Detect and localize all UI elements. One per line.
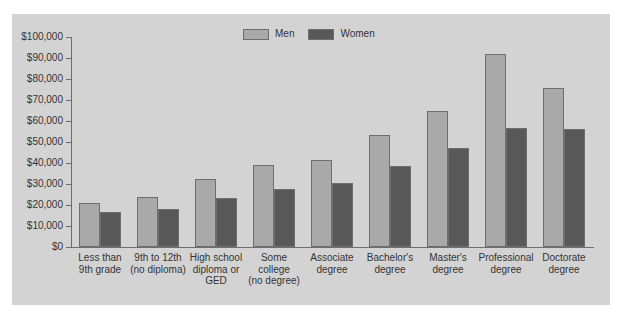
x-category-label-line: Some bbox=[242, 252, 306, 264]
bar-group bbox=[485, 37, 527, 247]
y-axis-tick-labels: $100,000$90,000$80,000$70,000$60,000$50,… bbox=[0, 0, 63, 327]
bar-group bbox=[195, 37, 237, 247]
y-axis-tick bbox=[66, 205, 72, 206]
bar-women bbox=[332, 183, 353, 247]
x-category-label: Master'sdegree bbox=[416, 252, 480, 275]
bar-women bbox=[448, 148, 469, 247]
y-axis-tick bbox=[66, 37, 72, 38]
bar-group bbox=[311, 37, 353, 247]
y-axis-tick bbox=[66, 142, 72, 143]
x-category-label-line: Associate bbox=[300, 252, 364, 264]
x-axis-category-labels: Less than9th grade9th to 12th(no diploma… bbox=[71, 252, 593, 302]
x-category-label-line: Doctorate bbox=[532, 252, 596, 264]
bar-group bbox=[137, 37, 179, 247]
bar-men bbox=[79, 203, 100, 247]
y-axis-tick bbox=[66, 100, 72, 101]
y-axis-tick bbox=[66, 58, 72, 59]
x-category-label: Doctoratedegree bbox=[532, 252, 596, 275]
bar-group bbox=[427, 37, 469, 247]
x-category-label: Somecollege(no degree) bbox=[242, 252, 306, 287]
y-axis-tick bbox=[66, 184, 72, 185]
x-category-label-line: Master's bbox=[416, 252, 480, 264]
x-category-label: Associatedegree bbox=[300, 252, 364, 275]
y-tick-label: $60,000 bbox=[27, 116, 63, 126]
x-category-label-line: college bbox=[242, 264, 306, 276]
bar-men bbox=[543, 88, 564, 247]
x-category-label-line: 9th grade bbox=[68, 264, 132, 276]
bar-women bbox=[216, 198, 237, 247]
bar-women bbox=[564, 129, 585, 247]
x-category-label-line: diploma or bbox=[184, 264, 248, 276]
y-tick-label: $20,000 bbox=[27, 200, 63, 210]
x-category-label-line: Less than bbox=[68, 252, 132, 264]
y-tick-label: $30,000 bbox=[27, 179, 63, 189]
bar-men bbox=[253, 165, 274, 247]
bar-men bbox=[137, 197, 158, 247]
bar-men bbox=[195, 179, 216, 247]
y-tick-label: $70,000 bbox=[27, 95, 63, 105]
x-category-label: 9th to 12th(no diploma) bbox=[126, 252, 190, 275]
bar-men bbox=[427, 111, 448, 248]
bar-women bbox=[274, 189, 295, 247]
y-axis-tick bbox=[66, 121, 72, 122]
x-category-label-line: (no degree) bbox=[242, 275, 306, 287]
x-category-label: High schooldiploma orGED bbox=[184, 252, 248, 287]
y-tick-label: $40,000 bbox=[27, 158, 63, 168]
x-category-label: Professionaldegree bbox=[474, 252, 538, 275]
bar-men bbox=[485, 54, 506, 247]
y-tick-label: $10,000 bbox=[27, 221, 63, 231]
bar-group bbox=[369, 37, 411, 247]
x-category-label-line: High school bbox=[184, 252, 248, 264]
x-category-label-line: degree bbox=[358, 264, 422, 276]
bar-men bbox=[369, 135, 390, 247]
y-axis-tick bbox=[66, 79, 72, 80]
x-category-label-line: GED bbox=[184, 275, 248, 287]
y-axis-tick bbox=[66, 226, 72, 227]
x-category-label-line: (no diploma) bbox=[126, 264, 190, 276]
bar-group bbox=[79, 37, 121, 247]
chart-figure: Men Women $100,000$90,000$80,000$70,000$… bbox=[0, 0, 636, 327]
y-tick-label: $90,000 bbox=[27, 53, 63, 63]
bar-women bbox=[390, 166, 411, 247]
x-category-label-line: degree bbox=[474, 264, 538, 276]
x-category-label-line: Professional bbox=[474, 252, 538, 264]
y-axis-tick bbox=[66, 163, 72, 164]
plot-area bbox=[71, 37, 593, 247]
y-tick-label: $0 bbox=[52, 242, 63, 252]
bar-group bbox=[543, 37, 585, 247]
y-axis-tick bbox=[66, 247, 72, 248]
x-category-label-line: degree bbox=[300, 264, 364, 276]
x-category-label-line: 9th to 12th bbox=[126, 252, 190, 264]
bar-women bbox=[100, 212, 121, 247]
y-tick-label: $100,000 bbox=[21, 32, 63, 42]
bar-men bbox=[311, 160, 332, 247]
bar-group bbox=[253, 37, 295, 247]
x-category-label-line: degree bbox=[416, 264, 480, 276]
x-category-label: Bachelor'sdegree bbox=[358, 252, 422, 275]
y-tick-label: $50,000 bbox=[27, 137, 63, 147]
x-axis-line bbox=[71, 247, 594, 248]
x-category-label: Less than9th grade bbox=[68, 252, 132, 275]
x-category-label-line: Bachelor's bbox=[358, 252, 422, 264]
bar-women bbox=[506, 128, 527, 247]
bar-women bbox=[158, 209, 179, 247]
x-category-label-line: degree bbox=[532, 264, 596, 276]
y-tick-label: $80,000 bbox=[27, 74, 63, 84]
